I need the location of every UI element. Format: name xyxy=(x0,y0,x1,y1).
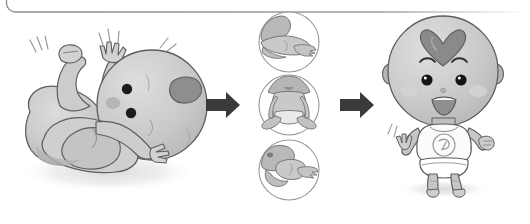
toddler-eye-right-highlight xyxy=(458,77,461,80)
toddler-foot-left xyxy=(427,189,439,197)
toddler-motion-lines xyxy=(388,124,397,137)
toddler-cheek-blush-left xyxy=(400,85,418,97)
toddler-eye-left xyxy=(421,74,432,85)
toddler-shirt xyxy=(417,124,471,163)
illustration-canvas xyxy=(0,0,530,224)
stage-3-toddler-standing xyxy=(0,0,530,224)
toddler-nose xyxy=(441,88,446,93)
toddler-diaper xyxy=(420,158,468,178)
toddler-ground-shadow xyxy=(400,180,488,198)
toddler-eye-right xyxy=(455,74,466,85)
toddler-eye-left-highlight xyxy=(424,77,427,80)
toddler-cheek-blush-right xyxy=(469,85,487,97)
toddler-foot-right xyxy=(453,189,465,197)
toddler-hand-left xyxy=(396,134,412,150)
